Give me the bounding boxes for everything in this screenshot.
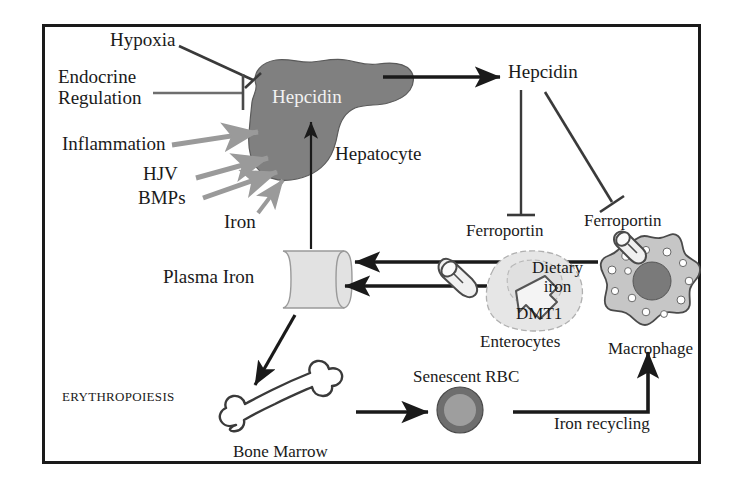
label-hepcidin-circulating: Hepcidin (508, 62, 578, 83)
bone-icon (220, 361, 342, 431)
plasma-tube-icon (283, 251, 352, 308)
red-blood-cell-icon (437, 387, 483, 433)
figure-canvas: Hypoxia Endocrine Regulation Inflammatio… (0, 0, 742, 500)
ferroportin-channel-icon (438, 258, 477, 297)
arrow-iron-recycling (513, 352, 648, 412)
label-endocrine-regulation: Endocrine Regulation (58, 66, 141, 109)
label-senescent-rbc: Senescent RBC (413, 368, 519, 386)
label-erythropoiesis: ERYTHROPOIESIS (62, 390, 175, 404)
label-dietary-line2: iron (532, 277, 583, 296)
label-dietary-line1: Dietary (532, 258, 583, 277)
hypoxia-inhibition-icon (179, 46, 261, 88)
endocrine-inhibition-icon (153, 74, 243, 110)
label-ferroportin-enterocyte: Ferroportin (466, 222, 543, 240)
label-inflammation: Inflammation (62, 134, 165, 155)
inflammation-stimulation-icon (172, 132, 258, 145)
label-dietary-iron: Dietary iron (532, 258, 583, 296)
macrophage-cell-icon (601, 229, 700, 325)
label-hepatocyte: Hepatocyte (335, 144, 422, 165)
label-endocrine-line2: Regulation (58, 87, 141, 108)
iron-stimulation-icon (258, 180, 283, 213)
label-bone-marrow: Bone Marrow (233, 443, 328, 461)
hepcidin-inhibits-macrophage-ferroportin-icon (545, 92, 624, 212)
label-bmps: BMPs (138, 188, 186, 209)
label-ferroportin-macrophage: Ferroportin (584, 212, 661, 230)
label-macrophage: Macrophage (608, 340, 693, 358)
label-iron-recycling: Iron recycling (554, 415, 650, 433)
label-hepcidin-liver: Hepcidin (272, 87, 342, 108)
label-endocrine-line1: Endocrine (58, 66, 141, 87)
arrow-plasma-to-bone-marrow (255, 315, 295, 385)
label-enterocytes: Enterocytes (480, 333, 560, 351)
label-iron: Iron (224, 212, 256, 233)
hepcidin-inhibits-enterocyte-ferroportin-icon (507, 90, 535, 215)
label-plasma-iron: Plasma Iron (163, 267, 254, 288)
label-hjv: HJV (143, 164, 178, 185)
label-hypoxia: Hypoxia (110, 30, 175, 51)
label-dmt1: DMT1 (516, 305, 562, 323)
bmps-stimulation-icon (203, 172, 277, 198)
